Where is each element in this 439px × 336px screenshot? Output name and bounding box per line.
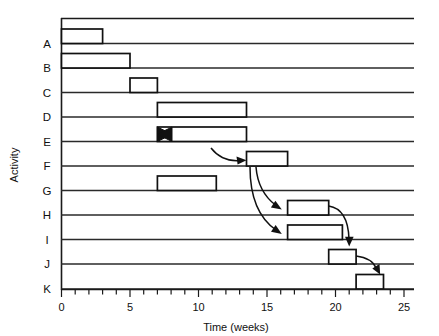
y-tick-label-A: A — [43, 38, 51, 50]
bar-activity-D[interactable] — [157, 103, 246, 118]
x-tick-label-10: 10 — [192, 301, 204, 313]
y-tick-label-F: F — [43, 160, 50, 172]
bar-activity-K[interactable] — [356, 275, 383, 290]
bar-activity-B[interactable] — [62, 54, 131, 69]
bar-activity-C[interactable] — [130, 78, 157, 93]
bar-activity-A[interactable] — [62, 29, 103, 44]
y-tick-label-H: H — [43, 209, 51, 221]
y-tick-label-D: D — [43, 111, 51, 123]
bar-activity-I[interactable] — [288, 225, 343, 240]
x-tick-label-5: 5 — [127, 301, 133, 313]
y-tick-label-B: B — [43, 62, 51, 74]
bar-activity-F[interactable] — [247, 152, 288, 167]
x-tick-label-0: 0 — [58, 301, 64, 313]
gantt-chart: A B C D E F G H I J K Activity — [0, 0, 439, 336]
y-tick-label-E: E — [43, 136, 51, 148]
bar-activity-G[interactable] — [157, 176, 216, 191]
y-axis-title: Activity — [8, 147, 20, 182]
bar-activity-H[interactable] — [288, 201, 329, 216]
y-tick-label-J: J — [44, 258, 50, 270]
y-tick-label-K: K — [43, 283, 51, 295]
y-tick-label-C: C — [43, 87, 51, 99]
y-tick-label-I: I — [45, 234, 48, 246]
x-tick-label-15: 15 — [261, 301, 273, 313]
x-tick-label-20: 20 — [329, 301, 341, 313]
bar-activity-J[interactable] — [329, 250, 356, 265]
y-tick-label-G: G — [43, 185, 52, 197]
gantt-chart-canvas: A B C D E F G H I J K Activity — [0, 0, 439, 336]
x-axis-title: Time (weeks) — [203, 321, 269, 333]
x-tick-label-25: 25 — [398, 301, 410, 313]
